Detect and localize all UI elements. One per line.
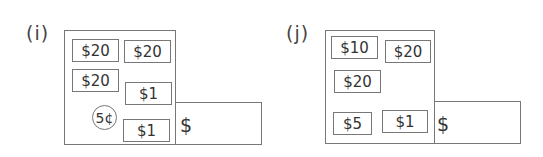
- problem-j-label: (j): [286, 22, 309, 44]
- bill-5: $5: [333, 112, 372, 135]
- bill-20: $20: [385, 40, 431, 63]
- problem-j-dollar-sign: $: [437, 113, 449, 135]
- problem-i-label: (i): [26, 22, 49, 44]
- coin-5-cents: 5¢: [92, 105, 117, 130]
- problem-i-dollar-sign: $: [180, 114, 192, 136]
- bill-1: $1: [382, 110, 428, 133]
- bill-20: $20: [72, 39, 119, 62]
- bill-20: $20: [72, 69, 119, 92]
- bill-1: $1: [125, 82, 172, 105]
- bill-10: $10: [331, 36, 378, 59]
- bill-1: $1: [123, 119, 170, 142]
- bill-20: $20: [124, 40, 171, 63]
- bill-20: $20: [334, 70, 381, 93]
